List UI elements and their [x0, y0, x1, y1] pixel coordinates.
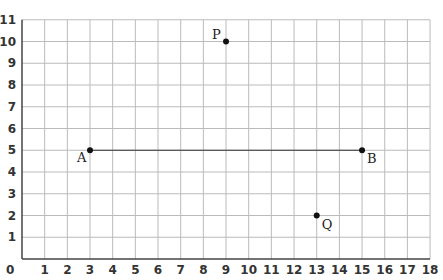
- grid-lines: [22, 20, 430, 259]
- y-tick-label: 3: [8, 187, 16, 201]
- y-tick-label: 7: [8, 100, 16, 114]
- point-Q: [314, 213, 320, 219]
- y-tick-label: 4: [8, 165, 16, 179]
- y-tick-label: 8: [8, 78, 16, 92]
- point-B: [359, 147, 365, 153]
- point-label-Q: Q: [322, 217, 333, 232]
- x-tick-label: 6: [154, 263, 162, 277]
- x-tick-label: 18: [422, 263, 439, 277]
- y-tick-label: 9: [8, 56, 16, 70]
- x-tick-label: 0: [6, 263, 14, 277]
- point-P: [223, 39, 229, 45]
- y-tick-label: 1: [8, 230, 16, 244]
- x-tick-label: 3: [86, 263, 94, 277]
- x-tick-label: 10: [240, 263, 257, 277]
- point-A: [87, 147, 93, 153]
- x-tick-label: 9: [222, 263, 230, 277]
- y-tick-label: 10: [0, 35, 16, 49]
- point-label-A: A: [76, 150, 87, 165]
- x-tick-label: 17: [399, 263, 416, 277]
- y-tick-label: 11: [0, 13, 16, 27]
- point-label-P: P: [212, 27, 221, 42]
- point-label-B: B: [367, 151, 377, 166]
- y-tick-label: 2: [8, 209, 16, 223]
- x-tick-label: 14: [331, 263, 348, 277]
- x-tick-label: 11: [263, 263, 280, 277]
- x-tick-label: 7: [177, 263, 185, 277]
- x-tick-label: 12: [286, 263, 303, 277]
- x-tick-label: 4: [109, 263, 117, 277]
- x-axis-ticks: 0123456789101112131415161718: [6, 263, 438, 277]
- x-tick-label: 5: [131, 263, 139, 277]
- x-tick-label: 2: [63, 263, 71, 277]
- x-tick-label: 1: [40, 263, 48, 277]
- x-tick-label: 13: [308, 263, 325, 277]
- x-tick-label: 8: [199, 263, 207, 277]
- x-tick-label: 16: [376, 263, 393, 277]
- y-tick-label: 6: [8, 122, 16, 136]
- y-tick-label: 5: [8, 143, 16, 157]
- y-axis-ticks: 1234567891011: [0, 13, 16, 245]
- coordinate-grid-chart: 0123456789101112131415161718 12345678910…: [0, 0, 443, 280]
- x-tick-label: 15: [354, 263, 371, 277]
